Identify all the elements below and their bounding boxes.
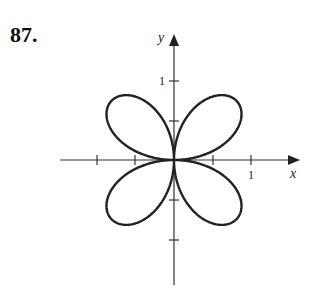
x-tick-label-1: 1	[248, 168, 254, 182]
y-tick-label-1: 1	[159, 74, 165, 88]
x-axis-label: x	[289, 166, 297, 181]
x-axis-arrow-icon	[288, 155, 300, 165]
y-axis-label: y	[156, 30, 165, 45]
rose-curve-plot: y 1 x 1	[0, 0, 323, 302]
y-axis-arrow-icon	[169, 34, 179, 46]
